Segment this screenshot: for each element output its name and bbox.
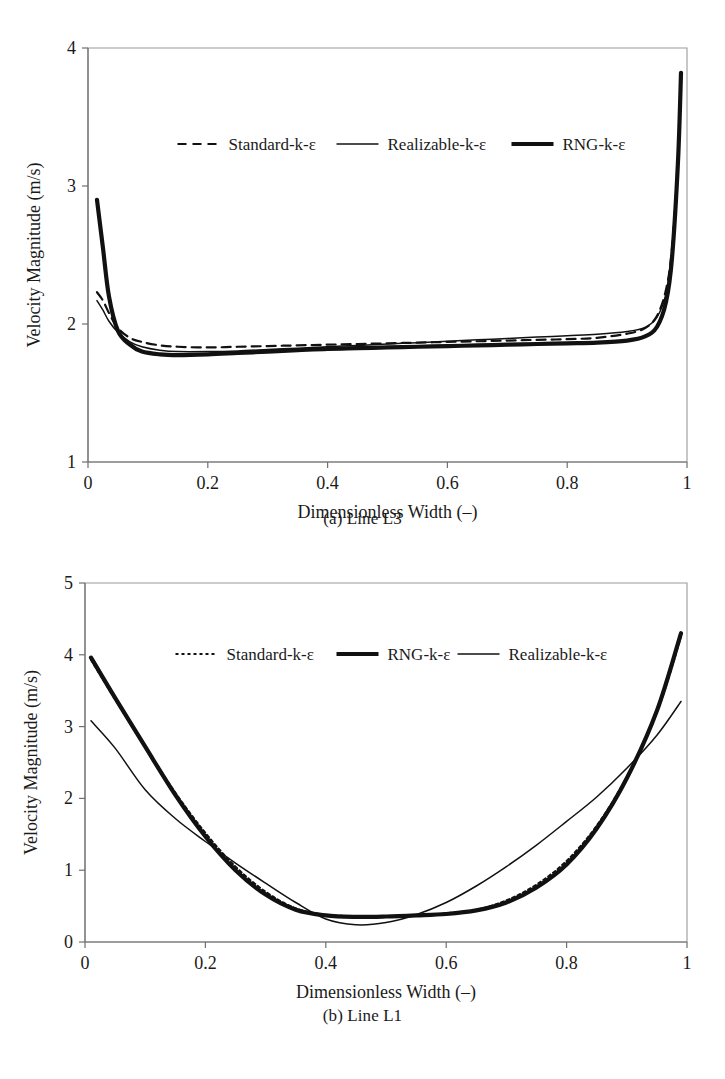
series-line: [97, 73, 681, 355]
caption-panel-a: (a) Line L3: [0, 509, 725, 529]
legend-item[interactable]: Realizable-k-ε: [458, 645, 608, 664]
figure-container: 123400.20.40.60.81Dimensionless Width (–…: [0, 0, 725, 1079]
y-tick-label: 3: [64, 717, 73, 737]
x-tick-label: 0.4: [315, 953, 338, 973]
x-tick-label: 0.8: [556, 473, 579, 493]
legend-label: Standard-k-ε: [229, 135, 316, 154]
series-line: [91, 701, 681, 924]
chart-a-svg: 123400.20.40.60.81Dimensionless Width (–…: [0, 0, 725, 540]
legend-item[interactable]: RNG-k-ε: [512, 135, 626, 154]
y-tick-label: 4: [64, 645, 73, 665]
legend-item[interactable]: RNG-k-ε: [337, 645, 451, 664]
series-group: [91, 633, 681, 925]
y-axis-title: Velocity Magnitude (m/s): [24, 163, 45, 348]
legend-item[interactable]: Standard-k-ε: [176, 645, 314, 664]
series-line: [91, 637, 681, 916]
legend-label: Realizable-k-ε: [388, 135, 487, 154]
legend: Standard-k-εRNG-k-εRealizable-k-ε: [176, 645, 608, 664]
plot-frame: [88, 48, 687, 462]
x-tick-label: 0: [84, 473, 93, 493]
chart-panel-a: 123400.20.40.60.81Dimensionless Width (–…: [0, 0, 725, 540]
legend-label: Standard-k-ε: [227, 645, 314, 664]
x-tick-label: 1: [683, 953, 692, 973]
legend: Standard-k-εRealizable-k-εRNG-k-ε: [178, 135, 626, 154]
series-group: [97, 73, 681, 355]
y-tick-label: 1: [64, 860, 73, 880]
y-axis-ticks: 012345: [64, 573, 85, 952]
x-tick-label: 0.6: [435, 953, 458, 973]
y-tick-label: 4: [67, 38, 76, 58]
series-line: [97, 76, 681, 352]
x-axis-ticks: 00.20.40.60.81: [81, 942, 692, 973]
plot-frame: [85, 583, 687, 942]
x-tick-label: 0.2: [197, 473, 220, 493]
y-tick-label: 1: [67, 452, 76, 472]
x-axis-title: Dimensionless Width (–): [296, 982, 476, 1003]
chart-panel-b: 01234500.20.40.60.81Dimensionless Width …: [0, 532, 725, 1032]
legend-item[interactable]: Realizable-k-ε: [337, 135, 487, 154]
x-tick-label: 0.2: [194, 953, 217, 973]
x-tick-label: 0.6: [436, 473, 459, 493]
x-tick-label: 0: [81, 953, 90, 973]
y-axis-title: Velocity Magnitude (m/s): [21, 670, 42, 855]
legend-label: RNG-k-ε: [388, 645, 451, 664]
y-tick-label: 0: [64, 932, 73, 952]
x-tick-label: 0.4: [316, 473, 339, 493]
y-tick-label: 2: [67, 314, 76, 334]
x-axis-ticks: 00.20.40.60.81: [84, 462, 692, 493]
series-line: [97, 78, 681, 347]
x-tick-label: 0.8: [555, 953, 578, 973]
y-axis-ticks: 1234: [67, 38, 88, 472]
series-line: [91, 633, 681, 917]
chart-b-svg: 01234500.20.40.60.81Dimensionless Width …: [0, 532, 725, 1032]
legend-item[interactable]: Standard-k-ε: [178, 135, 316, 154]
legend-label: Realizable-k-ε: [509, 645, 608, 664]
legend-label: RNG-k-ε: [563, 135, 626, 154]
caption-panel-b: (b) Line L1: [0, 1006, 725, 1026]
y-tick-label: 5: [64, 573, 73, 593]
y-tick-label: 3: [67, 176, 76, 196]
x-tick-label: 1: [683, 473, 692, 493]
y-tick-label: 2: [64, 788, 73, 808]
